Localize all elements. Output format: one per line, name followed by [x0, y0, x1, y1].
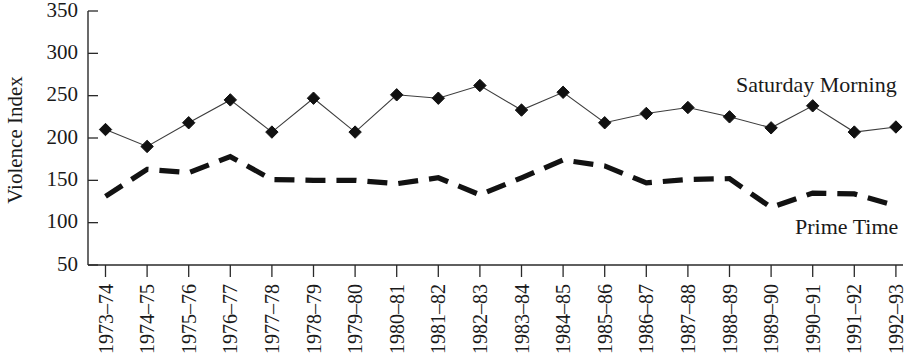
x-axis-tick-labels: 1973–741974–751975–761976–771977–781978–…: [95, 284, 907, 354]
data-point-marker: [640, 107, 652, 119]
data-point-marker: [307, 92, 319, 104]
x-tick-label-17: 1990–91: [802, 284, 824, 354]
chart-canvas: 50100150200250300350 1973–741974–751975–…: [0, 0, 920, 361]
x-tick-label-0: 1973–74: [95, 284, 117, 354]
x-tick-label-19: 1992–93: [885, 284, 907, 354]
x-tick-label-18: 1991–92: [843, 284, 865, 354]
data-point-marker: [682, 101, 694, 113]
data-point-marker: [432, 92, 444, 104]
series-lines-group: [106, 86, 896, 208]
y-tick-label-50: 50: [57, 252, 78, 276]
y-tick-label-300: 300: [47, 40, 79, 64]
data-point-marker: [890, 121, 902, 133]
x-tick-label-10: 1983–84: [511, 284, 533, 354]
data-point-marker: [765, 122, 777, 134]
data-point-marker: [723, 111, 735, 123]
x-tick-label-3: 1976–77: [219, 284, 241, 354]
x-tick-label-13: 1986–87: [635, 284, 657, 354]
data-point-marker: [141, 140, 153, 152]
x-tick-label-6: 1979–80: [344, 284, 366, 354]
x-tick-label-1: 1974–75: [136, 284, 158, 354]
x-tick-label-9: 1982–83: [469, 284, 491, 354]
x-tick-label-2: 1975–76: [178, 284, 200, 354]
data-point-marker: [474, 79, 486, 91]
violence-index-line-chart: 50100150200250300350 1973–741974–751975–…: [0, 0, 920, 361]
axis-frame: [88, 11, 903, 265]
y-tick-label-100: 100: [47, 209, 79, 233]
x-tick-label-4: 1977–78: [261, 284, 283, 354]
data-point-marker: [599, 117, 611, 129]
y-axis-tick-labels: 50100150200250300350: [47, 0, 79, 276]
series-label-saturday-morning: Saturday Morning: [736, 72, 897, 97]
x-axis-tick-marks: [106, 265, 896, 277]
data-point-marker: [266, 126, 278, 138]
data-point-marker: [183, 117, 195, 129]
x-tick-label-12: 1985–86: [594, 284, 616, 354]
x-tick-label-16: 1989–90: [760, 284, 782, 354]
x-tick-label-14: 1987–88: [677, 284, 699, 354]
series-line-prime-time: [106, 157, 896, 208]
y-axis-tick-marks: [88, 11, 98, 265]
series-label-prime-time: Prime Time: [795, 214, 898, 239]
data-point-marker: [557, 86, 569, 98]
data-point-marker: [515, 104, 527, 116]
data-point-marker: [99, 123, 111, 135]
x-tick-label-11: 1984–85: [552, 284, 574, 354]
y-tick-label-150: 150: [47, 167, 79, 191]
x-tick-label-15: 1988–89: [719, 284, 741, 354]
y-tick-label-250: 250: [47, 82, 79, 106]
data-point-marker: [807, 100, 819, 112]
y-tick-label-350: 350: [47, 0, 79, 22]
x-tick-label-8: 1981–82: [427, 284, 449, 354]
data-point-marker: [848, 126, 860, 138]
y-axis-title: Violence Index: [3, 76, 27, 204]
data-point-marker: [224, 94, 236, 106]
x-tick-label-7: 1980–81: [386, 284, 408, 354]
y-tick-label-200: 200: [47, 125, 79, 149]
x-tick-label-5: 1978–79: [303, 284, 325, 354]
